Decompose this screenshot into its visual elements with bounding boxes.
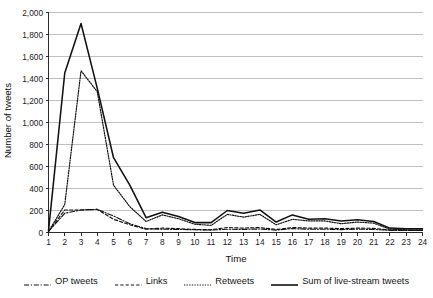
x-tick-label: 20 bbox=[353, 237, 363, 247]
legend-item-sum-of-live-stream-tweets[interactable]: Sum of live-stream tweets bbox=[271, 276, 409, 286]
legend-item-op-tweets[interactable]: OP tweets bbox=[24, 276, 98, 286]
dashed-line-icon bbox=[115, 276, 142, 286]
series-line-retweets bbox=[49, 71, 423, 232]
chart-legend: OP tweetsLinksRetweetsSum of live-stream… bbox=[0, 268, 433, 294]
x-tick-label: 23 bbox=[402, 237, 412, 247]
data-series-group bbox=[49, 24, 423, 232]
x-tick-label: 11 bbox=[207, 237, 216, 247]
x-tick-label: 8 bbox=[160, 237, 165, 247]
y-tick-label: 1,000 bbox=[22, 118, 43, 128]
x-tick-label: 14 bbox=[255, 237, 265, 247]
x-axis: 123456789101112131415161718192021222324 bbox=[46, 233, 427, 248]
x-tick-label: 1 bbox=[46, 237, 51, 247]
x-tick-label: 10 bbox=[190, 237, 200, 247]
x-tick-label: 3 bbox=[79, 237, 84, 247]
dotted-line-icon bbox=[184, 276, 211, 286]
chart-plot-area: 02004006008001,0001,2001,4001,6001,8002,… bbox=[0, 0, 433, 298]
x-tick-label: 24 bbox=[418, 237, 428, 247]
x-tick-label: 5 bbox=[111, 237, 116, 247]
y-tick-label: 200 bbox=[29, 206, 43, 216]
y-tick-label: 1,600 bbox=[22, 52, 43, 62]
legend-item-label: Links bbox=[146, 276, 168, 286]
y-tick-label: 1,400 bbox=[22, 74, 43, 84]
solid-line-icon bbox=[271, 276, 298, 286]
x-tick-label: 21 bbox=[369, 237, 379, 247]
x-tick-label: 4 bbox=[95, 237, 100, 247]
y-axis-title: Number of tweets bbox=[0, 0, 16, 240]
x-tick-label: 16 bbox=[288, 237, 298, 247]
legend-item-label: Sum of live-stream tweets bbox=[302, 276, 409, 286]
x-tick-label: 2 bbox=[62, 237, 67, 247]
x-tick-label: 15 bbox=[272, 237, 282, 247]
x-tick-label: 17 bbox=[304, 237, 314, 247]
y-tick-label: 1,800 bbox=[22, 30, 43, 40]
x-tick-label: 6 bbox=[127, 237, 132, 247]
x-tick-label: 19 bbox=[337, 237, 347, 247]
y-tick-label: 600 bbox=[29, 162, 43, 172]
series-line-sum-of-live-stream-tweets bbox=[49, 24, 423, 231]
x-tick-label: 22 bbox=[385, 237, 395, 247]
gridlines bbox=[49, 13, 423, 211]
dashdot-line-icon bbox=[24, 276, 51, 286]
tweet-volume-line-chart: 02004006008001,0001,2001,4001,6001,8002,… bbox=[0, 0, 433, 298]
y-axis: 02004006008001,0001,2001,4001,6001,8002,… bbox=[22, 8, 48, 238]
y-tick-label: 800 bbox=[29, 140, 43, 150]
legend-item-label: OP tweets bbox=[55, 276, 98, 286]
legend-item-label: Retweets bbox=[215, 276, 254, 286]
x-tick-label: 18 bbox=[320, 237, 330, 247]
y-tick-label: 2,000 bbox=[22, 8, 43, 18]
legend-item-links[interactable]: Links bbox=[115, 276, 168, 286]
x-axis-title: Time bbox=[226, 253, 247, 264]
x-tick-label: 13 bbox=[239, 237, 249, 247]
x-tick-label: 12 bbox=[223, 237, 233, 247]
x-tick-label: 7 bbox=[144, 237, 149, 247]
legend-item-retweets[interactable]: Retweets bbox=[184, 276, 254, 286]
y-tick-label: 400 bbox=[29, 184, 43, 194]
y-tick-label: 0 bbox=[38, 228, 43, 238]
x-tick-label: 9 bbox=[176, 237, 181, 247]
y-axis-title-label: Number of tweets bbox=[3, 82, 14, 157]
y-tick-label: 1,200 bbox=[22, 96, 43, 106]
